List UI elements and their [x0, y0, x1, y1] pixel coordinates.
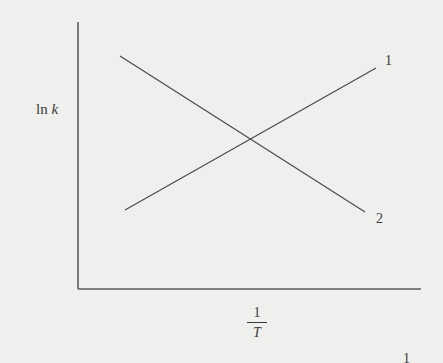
- series-2-line: [120, 56, 365, 212]
- y-axis-label: ln k: [36, 101, 58, 118]
- x-axis-label-denominator: T: [247, 325, 267, 340]
- x-axis-label-numerator: 1: [247, 305, 267, 320]
- y-axis-label-fn: ln: [36, 101, 48, 117]
- series-2-label: 2: [376, 211, 383, 227]
- x-axis-label: 1 T: [247, 305, 267, 340]
- fraction-bar: [247, 322, 267, 323]
- chart-plot-area: [0, 0, 443, 363]
- y-axis-label-var: k: [51, 101, 58, 117]
- series-1-label: 1: [385, 53, 392, 69]
- cropped-edge-mark: 1: [403, 351, 410, 363]
